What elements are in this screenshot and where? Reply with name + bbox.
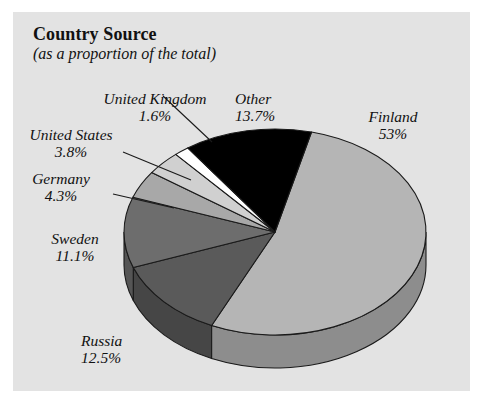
slice-label-finland-name: Finland — [368, 108, 417, 125]
slice-label-sweden-pct: 11.1% — [23, 247, 127, 264]
slice-label-germany-name: Germany — [32, 170, 90, 187]
slice-label-united-states-pct: 3.8% — [13, 143, 131, 160]
slice-label-other-pct: 13.7% — [235, 107, 345, 124]
pie-slice-tops: Finland 53%Russia 12.5%Sweden 11.1%Germa… — [124, 129, 426, 335]
slice-label-germany-pct: 4.3% — [13, 187, 113, 204]
slice-label-other-name: Other — [235, 90, 271, 107]
slice-label-finland: Finland 53% — [343, 108, 443, 143]
slice-label-united-kingdom: United Kingdom 1.6% — [85, 90, 225, 125]
slice-label-sweden: Sweden 11.1% — [23, 230, 127, 265]
slice-label-united-kingdom-pct: 1.6% — [85, 107, 225, 124]
slice-label-russia-pct: 12.5% — [81, 349, 201, 366]
slice-label-united-kingdom-name: United Kingdom — [104, 90, 207, 107]
chart-panel-inner: Country Source (as a proportion of the t… — [13, 12, 470, 391]
slice-label-united-states-name: United States — [29, 126, 112, 143]
slice-label-russia: Russia 12.5% — [81, 332, 201, 367]
slice-label-other: Other 13.7% — [235, 90, 345, 125]
slice-label-finland-pct: 53% — [343, 125, 443, 142]
slice-label-germany: Germany 4.3% — [13, 170, 113, 205]
slice-label-sweden-name: Sweden — [51, 230, 98, 247]
slice-label-russia-name: Russia — [81, 332, 122, 349]
chart-panel: Country Source (as a proportion of the t… — [13, 12, 470, 391]
slice-label-united-states: United States 3.8% — [13, 126, 131, 161]
